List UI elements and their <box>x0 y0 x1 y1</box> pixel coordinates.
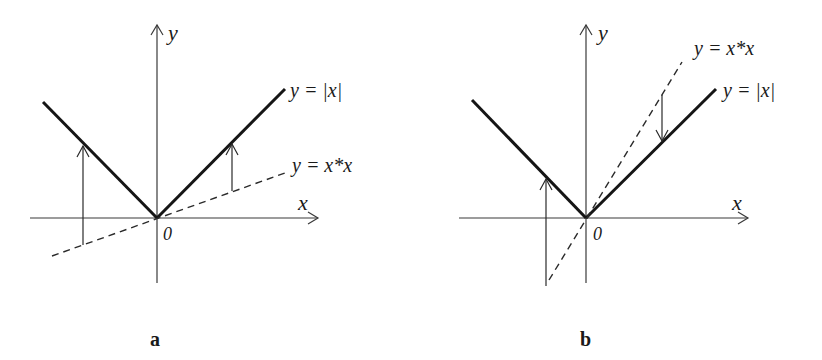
abs-curve-right-branch <box>586 89 716 218</box>
y-axis-label: y <box>166 20 178 45</box>
abs-curve-left-branch <box>43 102 157 218</box>
panel-a: y x 0 y = |x| y = x*x a <box>30 20 352 350</box>
origin-label: 0 <box>163 224 172 244</box>
origin-label: 0 <box>593 224 602 244</box>
x-axis-label: x <box>731 190 742 215</box>
line-curve-dashed <box>549 62 682 280</box>
x-axis-label: x <box>297 190 308 215</box>
line-curve-label: y = x*x <box>290 154 352 177</box>
panel-caption: b <box>580 328 591 350</box>
abs-curve-left-branch <box>472 100 586 218</box>
abs-curve-label: y = |x| <box>721 79 775 102</box>
abs-curve-label: y = |x| <box>288 79 342 102</box>
abs-curve-right-branch <box>157 89 285 218</box>
panel-b: y x 0 y = x*x y = |x| b <box>459 20 775 350</box>
line-curve-label: y = x*x <box>692 37 754 60</box>
figure-canvas: y x 0 y = |x| y = x*x a y x 0 y = x*x y … <box>0 0 822 360</box>
panel-caption: a <box>150 328 160 350</box>
y-axis-label: y <box>596 20 608 45</box>
